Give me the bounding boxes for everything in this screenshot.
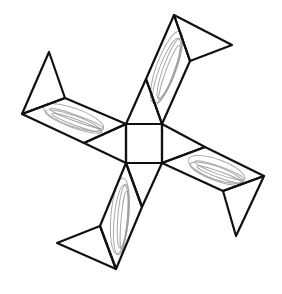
top-arm-inner-triangle	[126, 79, 162, 124]
bottom-arm-inner-triangle	[126, 163, 162, 207]
bottom-band-shading	[108, 177, 133, 255]
net-edges-layer	[22, 15, 264, 269]
pinwheel-net-diagram	[0, 0, 282, 294]
bottom-arm-flap	[57, 226, 116, 269]
right-band-shading	[185, 150, 249, 190]
scribble-shading-layer	[40, 28, 248, 255]
right-arm-flap	[223, 176, 264, 236]
left-arm-flap	[22, 52, 65, 114]
top-arm-band	[146, 15, 190, 124]
top-arm-flap	[174, 15, 232, 61]
right-arm-inner-triangle	[162, 124, 205, 163]
central-square	[126, 124, 162, 163]
